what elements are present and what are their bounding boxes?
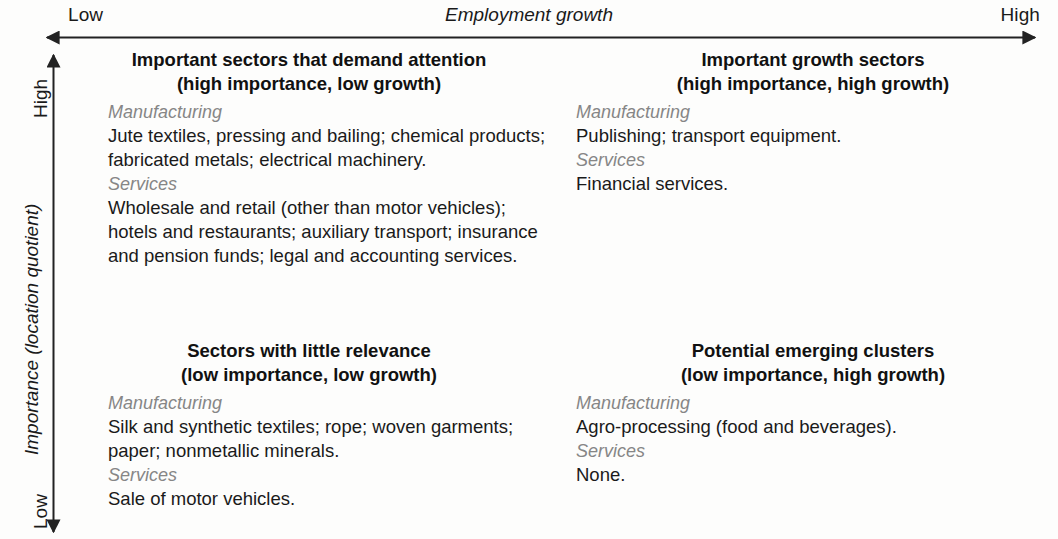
quadrant-body: Manufacturing Jute textiles, pressing an… <box>64 100 554 268</box>
quadrant-heading-line1: Potential emerging clusters <box>582 339 1044 363</box>
quadrant-heading: Sectors with little relevance (low impor… <box>64 339 554 387</box>
quadrant-heading-line1: Sectors with little relevance <box>78 339 540 363</box>
x-axis-high-label: High <box>1001 4 1040 26</box>
quadrant-high-importance-high-growth: Important growth sectors (high importanc… <box>568 48 1058 196</box>
quadrant-heading: Important growth sectors (high importanc… <box>568 48 1058 96</box>
quadrant-heading: Potential emerging clusters (low importa… <box>568 339 1058 387</box>
category-label-services: Services <box>108 172 550 196</box>
category-label-manufacturing: Manufacturing <box>108 100 550 124</box>
category-text-manufacturing: Publishing; transport equipment. <box>576 124 1054 148</box>
quadrant-low-importance-low-growth: Sectors with little relevance (low impor… <box>64 339 554 511</box>
category-text-services: Financial services. <box>576 172 1054 196</box>
y-axis-high-label: High <box>30 79 52 118</box>
category-label-manufacturing: Manufacturing <box>108 391 550 415</box>
quadrant-heading-line2: (low importance, low growth) <box>78 363 540 387</box>
category-label-services: Services <box>576 439 1054 463</box>
category-label-services: Services <box>576 148 1054 172</box>
category-label-services: Services <box>108 463 550 487</box>
quadrant-heading: Important sectors that demand attention … <box>64 48 554 96</box>
quadrant-grid: Important sectors that demand attention … <box>64 48 1058 539</box>
category-text-manufacturing: Agro-processing (food and beverages). <box>576 415 1054 439</box>
quadrant-heading-line2: (high importance, low growth) <box>78 72 540 96</box>
y-axis-low-label: Low <box>30 494 52 529</box>
quadrant-low-importance-high-growth: Potential emerging clusters (low importa… <box>568 339 1058 487</box>
quadrant-body: Manufacturing Agro-processing (food and … <box>568 391 1058 487</box>
quadrant-high-importance-low-growth: Important sectors that demand attention … <box>64 48 554 268</box>
importance-growth-matrix: Low Employment growth High High Importan… <box>0 0 1058 539</box>
category-label-manufacturing: Manufacturing <box>576 391 1054 415</box>
category-text-services: Sale of motor vehicles. <box>108 487 550 511</box>
quadrant-heading-line2: (low importance, high growth) <box>582 363 1044 387</box>
quadrant-heading-line1: Important growth sectors <box>582 48 1044 72</box>
x-axis-title: Employment growth <box>0 4 1058 26</box>
category-text-services: Wholesale and retail (other than motor v… <box>108 196 550 268</box>
category-text-services: None. <box>576 463 1054 487</box>
quadrant-body: Manufacturing Silk and synthetic textile… <box>64 391 554 511</box>
quadrant-heading-line1: Important sectors that demand attention <box>78 48 540 72</box>
category-text-manufacturing: Jute textiles, pressing and bailing; che… <box>108 124 550 172</box>
category-text-manufacturing: Silk and synthetic textiles; rope; woven… <box>108 415 550 463</box>
quadrant-body: Manufacturing Publishing; transport equi… <box>568 100 1058 196</box>
y-axis-title: Importance (location quotient) <box>21 204 43 455</box>
quadrant-heading-line2: (high importance, high growth) <box>582 72 1044 96</box>
category-label-manufacturing: Manufacturing <box>576 100 1054 124</box>
